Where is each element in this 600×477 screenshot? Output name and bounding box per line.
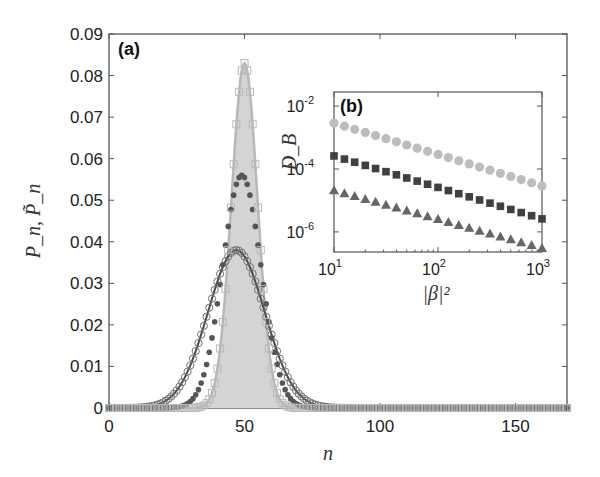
filled-dot-marker [198, 380, 204, 386]
inset-x-tick-label: 103 [526, 257, 550, 278]
filled-dot-marker [282, 387, 288, 393]
inset-circle-marker [496, 169, 505, 178]
inset-y-tick-label: 10-2 [286, 94, 314, 115]
filled-dot-marker [266, 319, 272, 325]
inset-square-marker [538, 215, 546, 223]
inset-circle-marker [371, 131, 380, 140]
inset-square-marker [486, 199, 494, 207]
broad-fit-line [109, 250, 567, 408]
inset-square-marker [497, 202, 505, 210]
inset-square-marker [476, 196, 484, 204]
inset-circle-marker [413, 144, 422, 153]
filled-dot-marker [263, 301, 269, 307]
inset-square-marker [517, 209, 525, 217]
inset-circle-marker [361, 128, 370, 137]
y-tick-label: 0.04 [70, 233, 103, 252]
inset-circle-marker [475, 162, 484, 171]
filled-dot-marker [193, 392, 199, 398]
filled-dot-marker [204, 362, 210, 368]
filled-dot-marker [253, 224, 259, 230]
inset-circle-marker [340, 122, 349, 131]
y-tick-label: 0.06 [70, 150, 103, 169]
y-tick-label: 0.03 [70, 274, 103, 293]
inset-square-marker [403, 174, 411, 182]
filled-dot-marker [242, 175, 248, 181]
inset-square-marker [362, 162, 370, 170]
inset-square-marker [455, 190, 463, 198]
filled-dot-marker [209, 335, 215, 341]
inset-x-tick-label: 101 [318, 257, 342, 278]
inset-circle-marker [527, 178, 536, 187]
inset-circle-marker [329, 118, 338, 127]
filled-dot-marker [225, 224, 231, 230]
filled-dot-marker [212, 319, 218, 325]
inset-square-marker [341, 155, 349, 163]
inset-square-marker [434, 184, 442, 192]
y-tick-label: 0.01 [70, 357, 103, 376]
inset-square-marker [382, 168, 390, 176]
filled-dot-marker [277, 372, 283, 378]
filled-dot-marker [201, 372, 207, 378]
inset-circle-marker [517, 175, 526, 184]
inset-circle-marker [465, 159, 474, 168]
y-axis-label: P_n, P̃_n [22, 184, 44, 259]
inset-square-marker [393, 171, 401, 179]
x-tick-label: 150 [501, 417, 529, 436]
figure: 00.010.020.030.040.050.060.070.080.09050… [0, 0, 600, 477]
inset-square-marker [372, 165, 380, 173]
inset-square-marker [528, 212, 536, 220]
panel-a-label: (a) [118, 39, 140, 59]
inset-plot-panel-b: 10110210310-610-410-2|β|²D_B [278, 92, 550, 305]
filled-dot-marker [269, 335, 275, 341]
y-tick-label: 0.09 [70, 25, 103, 44]
filled-dot-marker [255, 242, 261, 248]
filled-dot-marker [247, 192, 253, 198]
filled-dot-marker [215, 301, 221, 307]
inset-circle-marker [537, 181, 546, 190]
inset-square-marker [465, 193, 473, 201]
inset-circle-marker [433, 150, 442, 159]
filled-dot-marker [261, 282, 267, 288]
y-tick-label: 0.08 [70, 67, 103, 86]
filled-dot-marker [223, 242, 229, 248]
inset-square-marker [330, 152, 338, 160]
inset-circle-marker [506, 172, 515, 181]
inset-square-marker [351, 158, 359, 166]
inset-x-tick-label: 102 [422, 257, 446, 278]
inset-circle-marker [350, 125, 359, 134]
inset-square-marker [507, 206, 515, 214]
inset-y-axis-label: D_B [278, 134, 300, 172]
filled-dot-marker [244, 182, 250, 188]
filled-dot-marker [231, 192, 237, 198]
inset-square-marker [424, 180, 432, 188]
x-axis-label: n [323, 442, 333, 464]
y-tick-label: 0.05 [70, 191, 103, 210]
filled-dot-marker [206, 349, 212, 355]
x-tick-label: 50 [235, 417, 254, 436]
inset-circle-marker [392, 137, 401, 146]
y-tick-label: 0.02 [70, 316, 103, 335]
inset-circle-marker [402, 140, 411, 149]
inset-square-marker [445, 187, 453, 195]
inset-circle-marker [444, 153, 453, 162]
inset-circle-marker [485, 166, 494, 175]
inset-circle-marker [454, 156, 463, 165]
y-tick-label: 0.07 [70, 108, 103, 127]
panel-b-label: (b) [340, 96, 363, 116]
filled-dot-marker [220, 262, 226, 268]
inset-square-marker [413, 177, 421, 185]
inset-x-axis-label: |β|² [423, 282, 451, 305]
x-tick-label: 0 [104, 417, 113, 436]
y-tick-label: 0 [94, 399, 103, 418]
filled-dot-marker [280, 380, 286, 386]
inset-circle-marker [381, 134, 390, 143]
filled-dot-marker [234, 182, 240, 188]
filled-dot-marker [258, 262, 264, 268]
inset-circle-marker [423, 147, 432, 156]
x-tick-label: 100 [366, 417, 394, 436]
filled-dot-marker [196, 387, 202, 393]
inset-y-tick-label: 10-6 [286, 220, 314, 241]
